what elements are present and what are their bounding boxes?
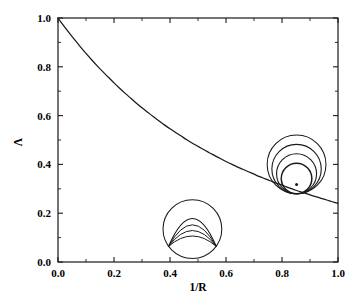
y-tick-label: 0.2 [37, 207, 51, 219]
x-axis-label: 1/R [189, 281, 207, 293]
y-tick-label: 0.0 [37, 256, 51, 268]
x-tick-label: 1.0 [331, 267, 345, 279]
x-tick-label: 0.6 [219, 267, 233, 279]
y-tick-label: 0.6 [37, 110, 51, 122]
y-axis-label: Λ [12, 137, 24, 146]
x-tick-label: 0.8 [275, 267, 289, 279]
y-tick-label: 0.4 [37, 158, 51, 170]
x-tick-label: 0.2 [107, 267, 121, 279]
y-tick-label: 1.0 [37, 12, 51, 24]
chart-canvas: 0.00.20.40.60.81.0 0.00.20.40.60.81.0 1/… [0, 0, 359, 300]
figure-root: 0.00.20.40.60.81.0 0.00.20.40.60.81.0 1/… [0, 0, 359, 300]
x-tick-label: 0.0 [51, 267, 65, 279]
y-tick-label: 0.8 [37, 61, 51, 73]
inset-center-dot [295, 183, 298, 186]
x-tick-label: 0.4 [163, 267, 177, 279]
